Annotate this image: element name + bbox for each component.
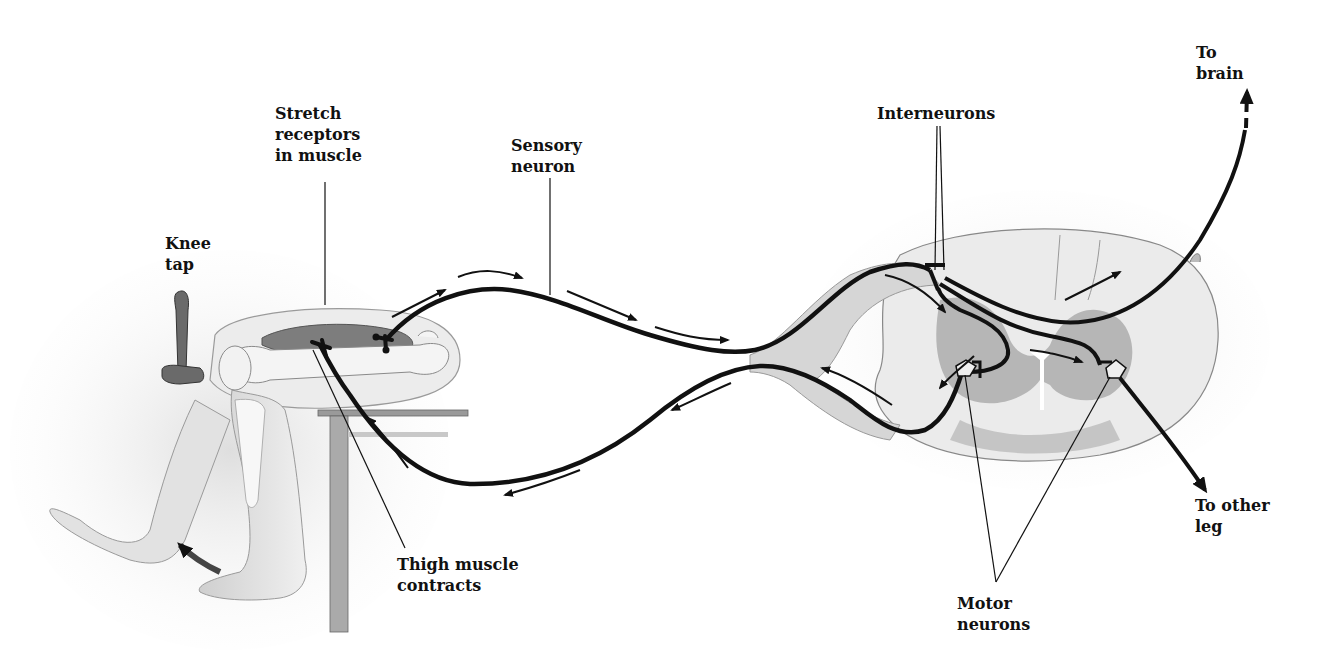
label-motor-neurons: Motor neurons	[957, 593, 1030, 635]
kneecap	[219, 346, 251, 390]
label-to-other-leg: To other leg	[1195, 495, 1270, 537]
reflex-arc-diagram: Stretch receptors in muscle Sensory neur…	[0, 0, 1318, 669]
diagram-canvas	[0, 0, 1318, 669]
label-stretch-receptors: Stretch receptors in muscle	[275, 103, 362, 166]
label-sensory-neuron: Sensory neuron	[511, 135, 582, 177]
leg-illustration	[10, 250, 460, 650]
spinal-cord-cross-section	[750, 190, 1270, 490]
label-knee-tap: Knee tap	[165, 233, 211, 275]
label-interneurons: Interneurons	[877, 103, 995, 124]
label-to-brain: To brain	[1196, 42, 1244, 84]
label-thigh-muscle-contracts: Thigh muscle contracts	[397, 554, 519, 596]
